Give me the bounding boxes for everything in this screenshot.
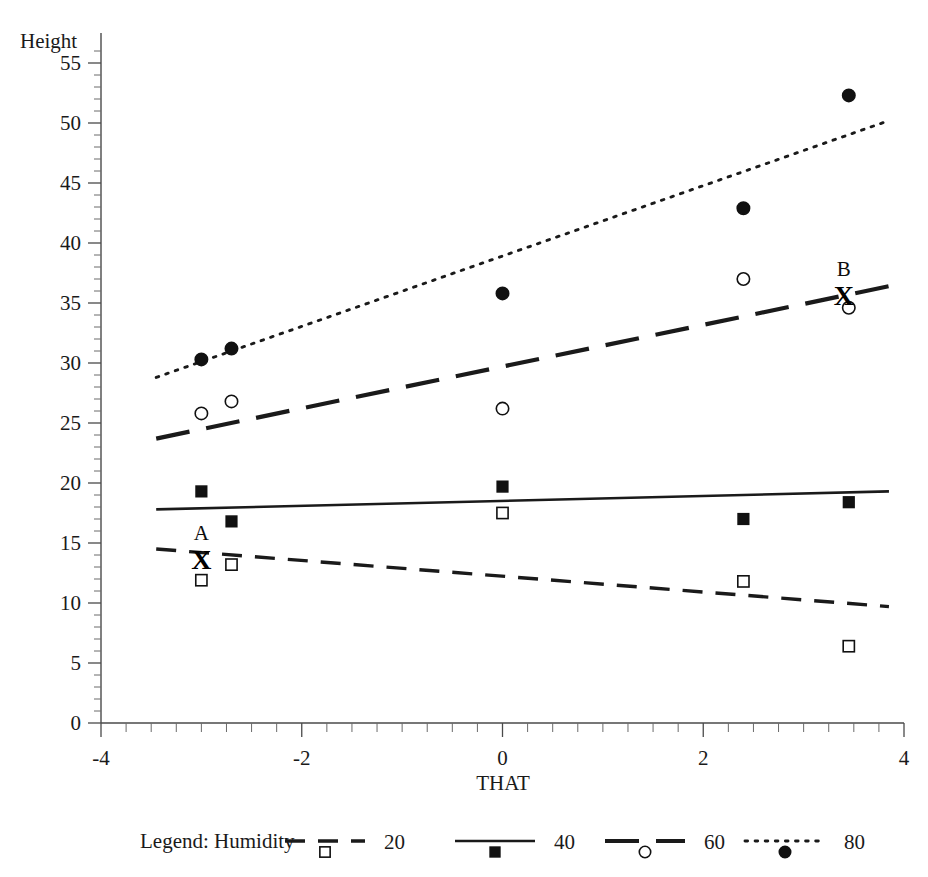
data-point-open-circle: [737, 273, 749, 285]
y-axis-tick-label: 10: [60, 591, 81, 615]
axes-group: 0510152025303540455055-4-2024: [60, 33, 910, 770]
x-axis-tick-label: 2: [698, 746, 709, 770]
trend-line-20: [156, 549, 889, 607]
y-axis-tick-label: 0: [71, 711, 82, 735]
data-point-open-square: [320, 847, 330, 857]
legend-title: Legend: Humidity: [140, 829, 295, 853]
annotation-marker-A: X: [191, 544, 211, 575]
data-point-filled-circle: [779, 846, 790, 857]
data-point-open-square: [226, 559, 237, 570]
y-axis-tick-label: 5: [71, 651, 82, 675]
data-point-filled-square: [196, 486, 207, 497]
series-60: [156, 273, 889, 439]
annotation-label-A: A: [194, 521, 210, 545]
x-axis-tick-label: 4: [899, 746, 910, 770]
scatter-plot: 0510152025303540455055-4-2024 AXBX Legen…: [0, 0, 928, 877]
y-axis-tick-label: 35: [60, 291, 81, 315]
data-point-filled-circle: [843, 89, 855, 101]
series-80: [156, 89, 889, 377]
legend-label-80: 80: [844, 830, 865, 854]
annotation-marker-B: X: [834, 280, 854, 311]
data-point-filled-square: [843, 497, 854, 508]
legend-label-20: 20: [384, 830, 405, 854]
data-point-open-square: [196, 575, 207, 586]
annotations-group: AXBX: [191, 257, 854, 575]
annotation-B: BX: [834, 257, 854, 311]
data-point-filled-circle: [737, 202, 749, 214]
y-axis-tick-label: 20: [60, 471, 81, 495]
legend-entry-20[interactable]: 20: [285, 830, 405, 857]
x-axis-tick-label: -4: [92, 746, 110, 770]
trend-line-60: [156, 286, 889, 438]
legend-entry-40[interactable]: 40: [455, 830, 575, 857]
trend-line-40: [156, 491, 889, 509]
y-axis-tick-label: 30: [60, 351, 81, 375]
legend-entry-80[interactable]: 80: [745, 830, 865, 858]
chart-canvas: 0510152025303540455055-4-2024 AXBX Legen…: [0, 0, 928, 877]
data-point-open-circle: [195, 407, 207, 419]
data-point-open-circle: [225, 395, 237, 407]
data-point-filled-square: [738, 514, 749, 525]
data-point-filled-square: [226, 516, 237, 527]
legend-label-60: 60: [704, 830, 725, 854]
y-axis-tick-label: 55: [60, 51, 81, 75]
annotation-A: AX: [191, 521, 211, 575]
annotation-label-B: B: [837, 257, 851, 281]
y-axis-tick-label: 15: [60, 531, 81, 555]
data-point-filled-square: [497, 481, 508, 492]
data-point-open-circle: [496, 402, 508, 414]
data-point-open-circle: [639, 846, 650, 857]
y-axis-title: Height: [20, 29, 77, 53]
data-point-open-square: [843, 641, 854, 652]
data-point-open-square: [738, 576, 749, 587]
legend-entry-60[interactable]: 60: [605, 830, 725, 858]
y-axis-tick-label: 45: [60, 171, 81, 195]
trend-line-80: [156, 121, 889, 378]
y-axis-tick-label: 25: [60, 411, 81, 435]
data-point-filled-circle: [496, 287, 508, 299]
series-20: [156, 507, 889, 651]
series-group: [156, 89, 889, 652]
data-point-filled-square: [490, 847, 500, 857]
x-axis-tick-label: 0: [497, 746, 508, 770]
legend-group: Legend: Humidity20406080: [140, 829, 865, 858]
x-axis-tick-label: -2: [293, 746, 311, 770]
data-point-filled-circle: [195, 353, 207, 365]
data-point-filled-circle: [225, 342, 237, 354]
x-axis-title: THAT: [476, 771, 530, 795]
y-axis-tick-label: 40: [60, 231, 81, 255]
data-point-open-square: [497, 507, 508, 518]
y-axis-tick-label: 50: [60, 111, 81, 135]
series-40: [156, 481, 889, 526]
legend-label-40: 40: [554, 830, 575, 854]
